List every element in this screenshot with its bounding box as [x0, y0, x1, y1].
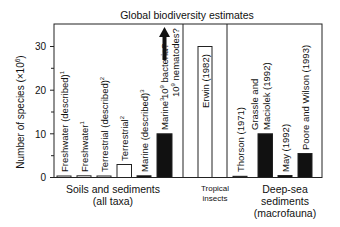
bar-freshwater-described — [57, 176, 71, 178]
biodiversity-chart: Global biodiversity estimates 0 10 20 30… — [0, 0, 340, 227]
label-freshwater: Freshwater1 — [79, 120, 90, 172]
group-label-soils-line1: Soils and sediments — [66, 183, 160, 195]
label-erwin: Erwin (1982) — [200, 54, 211, 108]
y-tick-30: 30 — [35, 41, 47, 52]
bar-terrestrial — [117, 165, 132, 178]
y-axis-label: Number of species (×106) — [14, 55, 26, 168]
y-tick-10: 10 — [35, 129, 47, 140]
label-may: May (1992) — [280, 124, 291, 172]
label-terrestrial-described: Terrestrial (described)2 — [99, 76, 110, 172]
y-axis — [50, 47, 54, 178]
label-poore-wilson: Poore and Wilson (1993) — [300, 45, 311, 150]
group-label-deepsea-line3: (macrofauna) — [254, 207, 316, 219]
bars — [57, 47, 312, 178]
bar-marine-described — [137, 176, 151, 178]
chart-title: Global biodiversity estimates — [120, 9, 254, 21]
label-terrestrial: Terrestrial2 — [119, 115, 130, 161]
label-bacteria: 109 bacteria? — [159, 43, 170, 99]
bar-poore-wilson — [298, 154, 312, 178]
group-label-deepsea-line2: sediments — [261, 195, 309, 207]
bar-grassle-maciolek — [258, 134, 273, 178]
group-label-tropical-line1: Tropical — [201, 184, 229, 193]
bar-marine — [157, 134, 172, 178]
label-grassle-line1: Grassle and — [249, 79, 260, 130]
bar-may — [278, 176, 292, 178]
label-grassle-line2: Maciolek (1992) — [261, 62, 272, 130]
label-freshwater-described: Freshwater (described)1 — [59, 70, 70, 172]
label-marine: Marine3 — [159, 97, 170, 130]
y-tick-0: 0 — [40, 172, 46, 183]
label-nematodes: 109 nematodes? — [170, 28, 181, 97]
y-tick-20: 20 — [35, 85, 47, 96]
bar-thorson — [233, 176, 247, 177]
group-label-soils-line2: (all taxa) — [93, 195, 133, 207]
label-thorson: Thorson (1971) — [235, 107, 246, 172]
bar-terrestrial-described — [97, 176, 111, 178]
label-marine-described: Marine (described)3 — [139, 89, 150, 172]
group-label-deepsea-line1: Deep-sea — [262, 183, 308, 195]
group-label-tropical-line2: insects — [203, 194, 228, 203]
bar-freshwater — [77, 176, 91, 178]
